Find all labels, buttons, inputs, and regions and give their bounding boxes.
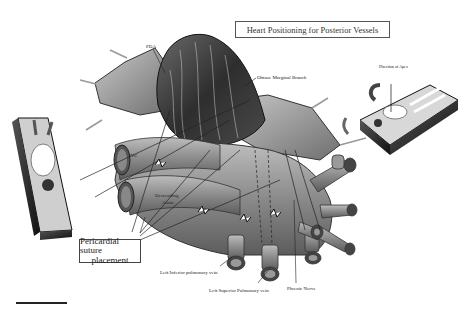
label-left-inferior-pulmonary-vein: Left Inferior pulmonary vein <box>160 270 218 275</box>
label-phrenic-nerve: Phrenic Nerve <box>287 286 316 291</box>
suture-label-line2: placement <box>92 256 129 265</box>
label-descending-aorta-1: Descending <box>155 193 179 198</box>
label-descending-aorta-2: Aorta <box>162 200 173 205</box>
label-pda: PDA <box>146 44 156 49</box>
diagram-title: Heart Positioning for Posterior Vessels <box>235 21 390 38</box>
suture-label-line1: Pericardial suture <box>80 237 140 256</box>
label-obtuse-marginal-branch: Obtuse Marginal Branch <box>257 75 306 80</box>
patient-supine-inset-left <box>12 118 72 240</box>
patient-supine-inset-right <box>344 84 458 155</box>
scale-bar <box>16 302 67 304</box>
label-ivc: IVC <box>129 153 138 158</box>
heart-illustration <box>0 0 464 309</box>
label-left-superior-pulmonary-vein: Left Superior Pulmonary vein <box>209 288 269 293</box>
pericardial-suture-placement-label: Pericardial suture placement <box>79 239 141 263</box>
label-direction-of-apex: Direction of Apex <box>379 65 408 69</box>
